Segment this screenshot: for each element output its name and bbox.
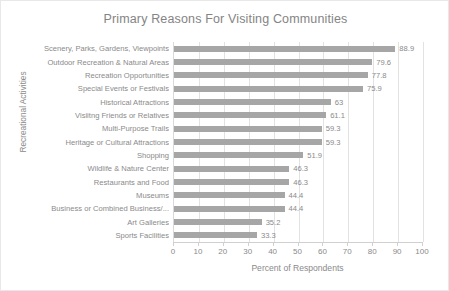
bar (174, 219, 262, 225)
category-label: Wildlife & Nature Center (23, 164, 169, 173)
category-label: Multi-Purpose Trails (23, 124, 169, 133)
x-tick (422, 242, 423, 246)
category-label: Art Galleries (23, 218, 169, 227)
bar-value-label: 61.1 (330, 111, 345, 120)
bar-value-label: 44.4 (289, 191, 304, 200)
bar-value-label: 46.3 (293, 164, 308, 173)
bar-value-label: 44.4 (289, 204, 304, 213)
bar (174, 152, 303, 158)
x-tick (248, 242, 249, 246)
bar (174, 166, 289, 172)
x-tick (173, 242, 174, 246)
category-label: Special Events or Festivals (23, 84, 169, 93)
x-tick (198, 242, 199, 246)
bar (174, 99, 331, 105)
bar-value-label: 77.8 (372, 71, 387, 80)
category-label: Shopping (23, 151, 169, 160)
bar-value-label: 33.3 (261, 231, 276, 240)
x-tick-label: 100 (407, 247, 437, 256)
x-tick (223, 242, 224, 246)
bar (174, 86, 363, 92)
bar (174, 112, 326, 118)
bar-value-label: 35.2 (266, 218, 281, 227)
bar (174, 139, 322, 145)
gridline (398, 42, 399, 242)
category-label: Sports Facilities (23, 231, 169, 240)
bar-value-label: 63 (335, 98, 343, 107)
bar-value-label: 75.9 (367, 84, 382, 93)
bar (174, 126, 322, 132)
category-label: Recreation Opportunities (23, 71, 169, 80)
category-label: Outdoor Recreation & Natural Areas (23, 58, 169, 67)
bar-value-label: 79.6 (376, 58, 391, 67)
x-tick (298, 242, 299, 246)
x-tick (397, 242, 398, 246)
x-axis-title: Percent of Respondents (173, 263, 422, 273)
bar (174, 59, 372, 65)
gridline (423, 42, 424, 242)
x-tick (273, 242, 274, 246)
bar (174, 232, 257, 238)
bar (174, 179, 289, 185)
category-label: Business or Combined Business/... (23, 204, 169, 213)
bar-value-label: 51.9 (307, 151, 322, 160)
bar (174, 192, 285, 198)
category-label: Historical Attractions (23, 98, 169, 107)
bar (174, 206, 285, 212)
bar (174, 72, 368, 78)
x-tick (347, 242, 348, 246)
x-tick (322, 242, 323, 246)
x-tick (372, 242, 373, 246)
bar (174, 46, 395, 52)
plot-area: 88.979.677.875.96361.159.359.351.946.346… (173, 42, 423, 242)
chart-container: Primary Reasons For Visiting Communities… (0, 0, 449, 291)
category-label: Museums (23, 191, 169, 200)
chart-title: Primary Reasons For Visiting Communities (1, 12, 449, 26)
bar-value-label: 46.3 (293, 178, 308, 187)
bar-value-label: 59.3 (326, 138, 341, 147)
category-label: Visiitng Friends or Relatives (23, 111, 169, 120)
category-label: Heritage or Cultural Attractions (23, 138, 169, 147)
category-label: Restaurants and Food (23, 178, 169, 187)
category-label: Scenery, Parks, Gardens, Viewpoints (23, 44, 169, 53)
category-axis-labels: Scenery, Parks, Gardens, ViewpointsOutdo… (23, 42, 169, 242)
bar-value-label: 88.9 (399, 44, 414, 53)
bar-value-label: 59.3 (326, 124, 341, 133)
